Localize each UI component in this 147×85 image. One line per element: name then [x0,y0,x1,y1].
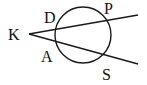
label-d: D [44,9,56,26]
label-k: K [8,26,20,43]
label-s: S [102,66,111,83]
label-a: A [41,48,53,65]
secant-diagram: K D P A S [0,0,147,85]
label-p: P [104,0,113,17]
